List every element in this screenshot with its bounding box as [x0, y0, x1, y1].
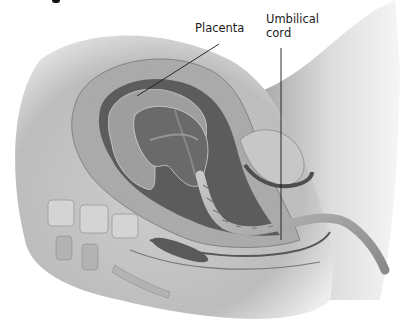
- placenta-label: Placenta: [195, 21, 244, 35]
- umbilical-cord-label: Umbilical cord: [266, 12, 319, 40]
- umbilical-cord-label-line2: cord: [266, 26, 319, 40]
- anatomy-illustration: [0, 0, 408, 326]
- umbilical-cord-label-line1: Umbilical: [266, 12, 319, 26]
